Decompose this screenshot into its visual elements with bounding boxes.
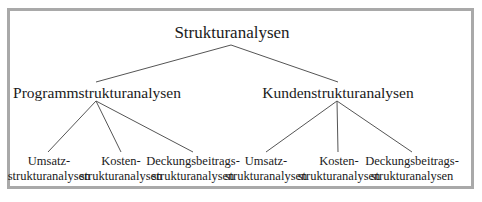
connector-kunden-to-umsatz <box>266 101 337 152</box>
program-node-label: Programmstrukturanalysen <box>13 84 181 102</box>
kunden-node-label: Kundenstrukturanalysen <box>262 84 414 102</box>
root-node-label: Strukturanalysen <box>174 23 289 43</box>
connector-root-to-kunden <box>231 45 338 82</box>
leaf-line2: strukturanalysen <box>225 169 308 184</box>
connector-kunden-to-kosten <box>337 101 338 152</box>
leaf-line1: Deckungsbeitrags- <box>365 154 459 169</box>
leaf-line2: strukturanalysen <box>365 169 459 184</box>
connector-program-to-deckung <box>96 101 193 152</box>
connector-program-to-kosten <box>96 101 121 152</box>
kunden-deckung-node: Deckungsbeitrags- strukturanalysen <box>365 154 459 184</box>
program-umsatz-node: Umsatz- strukturanalysen <box>8 154 91 184</box>
leaf-line1: Umsatz- <box>8 154 91 169</box>
connector-root-to-program <box>96 45 231 82</box>
leaf-line2: strukturanalysen <box>8 169 91 184</box>
kunden-umsatz-node: Umsatz- strukturanalysen <box>225 154 308 184</box>
leaf-line1: Umsatz- <box>225 154 308 169</box>
connector-kunden-to-deckung <box>337 101 412 152</box>
connector-program-to-umsatz <box>48 101 96 152</box>
